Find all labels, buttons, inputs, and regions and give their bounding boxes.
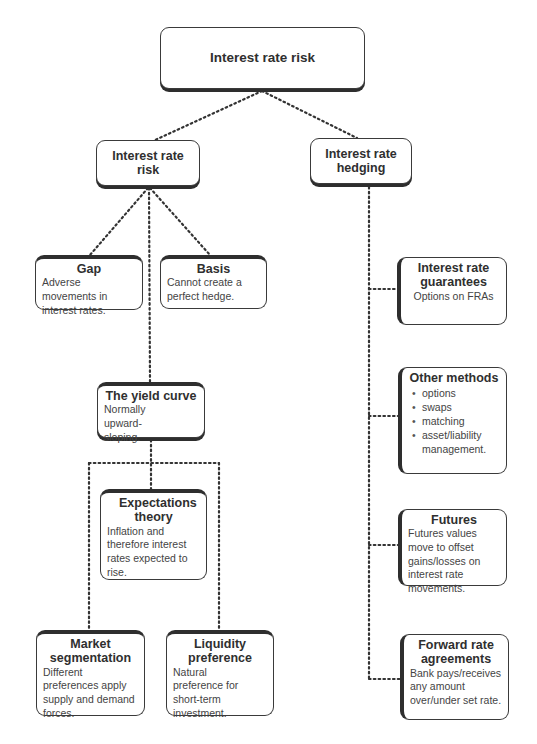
basis-title: Basis <box>167 262 260 276</box>
yield-curve-title: The yield curve <box>104 389 198 403</box>
basis-desc: Cannot create a perfect hedge. <box>167 276 260 303</box>
interest-rate-guarantees-title: Interest rate guarantees <box>407 261 500 290</box>
gap-desc: Adverse movements in interest rates. <box>42 276 136 317</box>
other-methods-item: swaps <box>412 401 500 415</box>
forward-rate-agreements-title: Forward rate agreements <box>410 638 502 667</box>
other-methods-item: asset/liability management. <box>412 429 500 457</box>
interest-rate-hedging-title: Interest rate hedging <box>317 147 405 176</box>
root-node-title: Interest rate risk <box>210 50 315 66</box>
interest-rate-hedging-node: Interest rate hedging <box>310 138 412 184</box>
gap-node: Gap Adverse movements in interest rates. <box>35 255 143 310</box>
interest-rate-risk-node: Interest rate risk <box>96 140 200 186</box>
yield-curve-desc: Normally upward-sloping. <box>104 403 198 444</box>
root-node: Interest rate risk <box>160 27 365 89</box>
liquidity-preference-title: Liquidity preference <box>173 637 267 666</box>
liquidity-preference-desc: Natural preference for short-term invest… <box>173 666 267 721</box>
interest-rate-guarantees-node: Interest rate guarantees Options on FRAs <box>397 257 507 325</box>
other-methods-list: options swaps matching asset/liability m… <box>408 387 500 456</box>
forward-rate-agreements-node: Forward rate agreements Bank pays/receiv… <box>400 634 509 720</box>
other-methods-item: options <box>412 387 500 401</box>
expectations-theory-title: Expectations theory <box>107 496 200 525</box>
basis-node: Basis Cannot create a perfect hedge. <box>160 255 267 309</box>
other-methods-item: matching <box>412 415 500 429</box>
other-methods-node: Other methods options swaps matching ass… <box>398 367 507 474</box>
liquidity-preference-node: Liquidity preference Natural preference … <box>166 630 274 716</box>
market-segmentation-title: Market segmentation <box>43 637 138 666</box>
futures-desc: Futures values move to offset gains/loss… <box>408 527 500 595</box>
market-segmentation-node: Market segmentation Different preference… <box>36 630 145 716</box>
gap-title: Gap <box>42 262 136 276</box>
interest-rate-risk-title: Interest rate risk <box>103 149 193 178</box>
futures-node: Futures Futures values move to offset ga… <box>398 509 507 586</box>
yield-curve-node: The yield curve Normally upward-sloping. <box>97 382 205 438</box>
other-methods-title: Other methods <box>408 371 500 385</box>
market-segmentation-desc: Different preferences apply supply and d… <box>43 666 138 721</box>
interest-rate-guarantees-desc: Options on FRAs <box>407 290 500 304</box>
forward-rate-agreements-desc: Bank pays/receives any amount over/under… <box>410 667 502 708</box>
expectations-theory-desc: Inflation and therefore interest rates e… <box>107 525 200 580</box>
futures-title: Futures <box>408 513 500 527</box>
expectations-theory-node: Expectations theory Inflation and theref… <box>100 489 207 580</box>
